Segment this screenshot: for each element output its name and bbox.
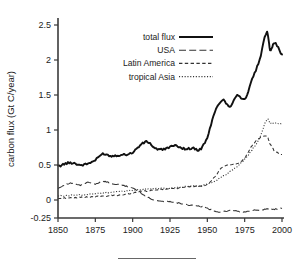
series-line-latin-america [58, 136, 282, 199]
x-tick-label: 2000 [272, 225, 292, 235]
x-tick-label: 1975 [235, 225, 255, 235]
y-tick-label: 0.5 [38, 160, 51, 170]
caption-rule [118, 258, 196, 259]
legend-label: tropical Asia [129, 72, 176, 82]
legend-label: total flux [143, 32, 176, 42]
figure-container: 2.521.510.50-0.2518501875190019251950197… [0, 0, 300, 272]
x-tick-label: 1900 [123, 225, 143, 235]
x-tick-label: 1925 [160, 225, 180, 235]
legend-item-tropical-asia: tropical Asia [129, 72, 213, 82]
carbon-flux-line-chart: 2.521.510.50-0.2518501875190019251950197… [0, 0, 300, 272]
x-tick-label: 1850 [48, 225, 68, 235]
y-tick-label: 2 [46, 55, 51, 65]
y-tick-label: 1 [46, 125, 51, 135]
legend-item-latin-america: Latin America [123, 58, 213, 68]
y-axis-label-text: carbon flux (Gt C/year) [5, 71, 16, 167]
y-tick-label: 0 [46, 195, 51, 205]
y-axis-label: carbon flux (Gt C/year) [5, 71, 16, 167]
x-tick-label: 1950 [197, 225, 217, 235]
y-tick-label: 2.5 [38, 20, 51, 30]
x-tick-label: 1875 [85, 225, 105, 235]
legend-item-total-flux: total flux [143, 32, 213, 42]
legend-layer: total fluxUSALatin Americatropical Asia [123, 32, 213, 82]
legend-item-usa: USA [157, 45, 213, 55]
y-tick-label: -0.25 [30, 213, 51, 223]
legend-label: USA [157, 45, 175, 55]
y-tick-label: 1.5 [38, 90, 51, 100]
legend-label: Latin America [123, 58, 175, 68]
series-line-tropical-asia [58, 119, 282, 196]
